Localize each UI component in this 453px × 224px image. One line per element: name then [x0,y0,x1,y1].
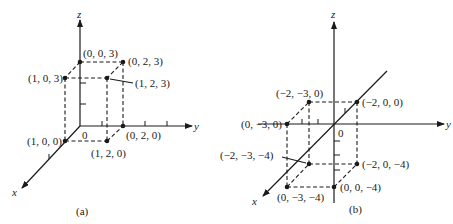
y-axis-label-b: y [445,118,451,130]
caption-a: (a) [76,205,89,218]
label-0-2-3: (0, 2, 3) [128,55,163,68]
label-1-0-0: (1, 0, 0) [27,135,62,148]
label-1-2-3: (1, 2, 3) [135,77,170,90]
figure-canvas: z y x 0 (0, 0, 3) (0, 2, 3) (1, 0, 3) (1… [0,0,453,224]
point-n2-0-n4 [355,162,360,167]
point-n2-n3-n4 [307,162,312,167]
panel-b: z y x 0 (0, −3, 0) (−2, −3, 0) (−2, 0, 0… [220,8,451,216]
point-0-0-3 [78,60,83,65]
caption-b: (b) [349,203,362,216]
label-n2-n3-n4: (−2, −3, −4) [220,149,274,162]
label-0-0-3: (0, 0, 3) [83,47,118,60]
label-1-2-0: (1, 2, 0) [91,147,126,160]
point-0-2-0 [121,124,126,129]
leader-1-2-3 [110,79,133,83]
label-0-2-0: (0, 2, 0) [126,129,161,142]
point-1-0-3 [63,76,68,81]
point-0-n3-n4 [285,185,290,190]
origin-label-a: 0 [82,129,88,141]
label-n2-0-0: (−2, 0, 0) [362,96,403,109]
point-1-2-0 [105,139,110,144]
z-axis-label-a: z [76,8,82,20]
point-n2-n3-0 [307,100,312,105]
label-0-0-n4: (0, 0, −4) [340,181,381,194]
dashed-box-b [287,102,357,187]
x-axis-label-a: x [11,186,17,198]
dashed-box-a [65,62,123,141]
label-0-n3-0: (0, −3, 0) [241,118,282,131]
label-n2-n3-0: (−2, −3, 0) [276,87,324,100]
point-0-n3-0 [285,122,290,127]
label-0-n3-n4: (0, −3, −4) [277,191,325,204]
label-n2-0-n4: (−2, 0, −4) [362,158,410,171]
origin-label-b: 0 [338,127,344,139]
x-axis-label-b: x [251,195,257,207]
label-1-0-3: (1, 0, 3) [28,72,63,85]
leader-n2-n3-n4 [282,157,306,163]
y-axis-label-a: y [193,120,199,132]
point-0-2-3 [121,60,126,65]
point-1-0-0 [63,139,68,144]
point-1-2-3 [105,76,110,81]
panel-a: z y x 0 (0, 0, 3) (0, 2, 3) (1, 0, 3) (1… [11,8,199,218]
point-0-0-n4 [332,185,337,190]
point-n2-0-0 [355,100,360,105]
z-axis-label-b: z [330,8,336,20]
